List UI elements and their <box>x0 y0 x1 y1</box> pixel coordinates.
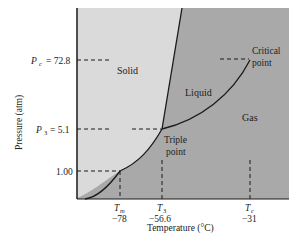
gas-label: Gas <box>242 112 258 123</box>
p3-sub: 3 <box>44 129 47 136</box>
pc-value: = 72.8 <box>46 56 71 66</box>
p1-value: 1.00 <box>56 167 73 177</box>
triple-point-label-1: Triple <box>164 135 187 145</box>
p3-symbol: P <box>35 125 42 135</box>
phase-diagram: Solid Liquid Gas Critical point Triple p… <box>0 0 304 234</box>
tm-value: −78 <box>112 214 127 224</box>
critical-point-label-1: Critical <box>252 46 281 56</box>
tm-sub: m <box>120 207 125 214</box>
x-axis-title: Temperature (°C) <box>147 223 214 234</box>
critical-point-label-2: point <box>252 58 272 68</box>
pc-sub: c <box>39 60 42 67</box>
pc-symbol: P <box>30 56 37 66</box>
p3-value: = 5.1 <box>50 125 70 135</box>
liquid-label: Liquid <box>185 87 212 98</box>
triple-point-label-2: point <box>166 147 186 157</box>
t3-sub: 3 <box>163 207 166 214</box>
solid-label: Solid <box>117 65 138 76</box>
tc-value: −31 <box>242 214 257 224</box>
tc-sub: c <box>251 207 254 214</box>
y-axis-title: Pressure (atm) <box>14 95 25 150</box>
